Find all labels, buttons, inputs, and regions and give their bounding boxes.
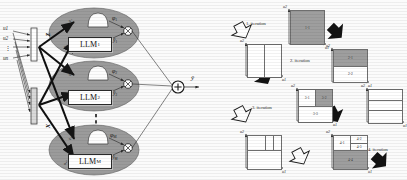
iteration-4-grid[interactable]: 4-1 4-2 4-3 4-4 bbox=[333, 135, 368, 170]
branch-output-m-sub: M bbox=[114, 157, 117, 161]
llm-box-1[interactable]: LLM1 bbox=[68, 37, 112, 52]
branchm-x-label: xM bbox=[63, 160, 68, 165]
input-label-u2-text: u2 bbox=[3, 35, 8, 41]
iteration-3-grid[interactable]: 3-1 3-2 3-3 bbox=[298, 89, 333, 123]
iteration-4-cell-4-1-label: 4-1 bbox=[340, 141, 345, 145]
structure-box-2-cell-c[interactable] bbox=[369, 111, 402, 123]
iteration-3-cell-3-2-label: 3-2 bbox=[322, 96, 327, 100]
white-arrow-4 bbox=[287, 145, 314, 169]
iteration-4-cell-4-4[interactable]: 4-4 bbox=[334, 151, 367, 169]
product-node-1 bbox=[124, 27, 133, 36]
branch1-z-sub: 1 bbox=[69, 19, 73, 20]
iteration-1-label: 1. iteration bbox=[246, 21, 266, 26]
input-label-u1: u1 bbox=[3, 26, 8, 31]
llm-box-m[interactable]: LLMM bbox=[68, 154, 112, 169]
iteration-2-cell-2-2[interactable]: 2-2 bbox=[334, 67, 367, 82]
structure-box-3-axis-x-text: u1 bbox=[282, 169, 286, 174]
llm-box-1-sub: 1 bbox=[97, 42, 100, 47]
structure-box-2-axis-x: u1 bbox=[403, 123, 407, 128]
z-vector-label-text: z bbox=[43, 33, 52, 36]
iteration-3-label-text: 3. iteration bbox=[252, 105, 272, 110]
branch2-z-sub: 2 bbox=[69, 73, 73, 74]
input-vdots-text: ⋮ bbox=[5, 45, 11, 51]
branch2-z-label: z2 bbox=[68, 73, 73, 76]
structure-box-2-axis-y-text: u2 bbox=[361, 83, 365, 88]
branch1-x-text: x bbox=[62, 46, 67, 48]
structure-box-3-cell-a[interactable] bbox=[248, 136, 266, 151]
branch-output-2: ŷ2 bbox=[113, 91, 117, 97]
product-node-m bbox=[124, 144, 133, 153]
structure-box-2-axis-x-text: u1 bbox=[403, 123, 407, 128]
branch-output-2-sub: 2 bbox=[115, 93, 117, 97]
input-label-un-text: un bbox=[3, 55, 8, 61]
iteration-2-label: 2. iteration bbox=[290, 58, 310, 63]
branchm-z-label: zM bbox=[68, 136, 73, 140]
structure-box-1-cell-a[interactable] bbox=[248, 45, 265, 77]
branch2-z-text: z bbox=[67, 74, 72, 76]
structure-box-1-axis-y-text: u2 bbox=[240, 38, 244, 43]
iteration-1-label-text: 1. iteration bbox=[246, 21, 266, 26]
iteration-1-axis-y: u2 bbox=[283, 4, 287, 9]
iteration-1-axis-y-text: u2 bbox=[283, 4, 287, 9]
iteration-3-cell-3-3-label: 3-3 bbox=[313, 112, 318, 116]
iteration-3-label: 3. iteration bbox=[252, 105, 272, 110]
x-vector-bar bbox=[31, 88, 37, 124]
structure-box-3-cell-d[interactable] bbox=[248, 151, 281, 169]
structure-box-3-grid[interactable] bbox=[247, 135, 282, 170]
iteration-4-label: 4. iteration bbox=[368, 147, 388, 152]
iteration-4-cell-4-2-label: 4-2 bbox=[357, 137, 362, 141]
iteration-2-cell-2-1-label: 2-1 bbox=[348, 56, 353, 60]
network-architecture-panel: LLM1 LLM2 LLMM u1 u2 ⋮ un z x z1 bbox=[0, 0, 204, 180]
structure-box-2-grid[interactable] bbox=[368, 89, 403, 124]
structure-box-1-axis-y: u2 bbox=[240, 38, 244, 43]
iteration-3-cell-3-2[interactable]: 3-2 bbox=[316, 90, 332, 107]
iteration-3-cell-3-3[interactable]: 3-3 bbox=[299, 107, 332, 122]
llm-box-2-sub: 2 bbox=[97, 95, 100, 100]
branch1-z-text: z bbox=[67, 20, 72, 22]
iteration-4-cell-4-2[interactable]: 4-2 bbox=[351, 136, 367, 144]
final-output-label: ŷ bbox=[191, 75, 194, 82]
llm-box-m-sub: M bbox=[96, 159, 101, 164]
iteration-1-grid[interactable]: 1-1 bbox=[290, 10, 325, 45]
structure-box-3-axis-y-text: u2 bbox=[240, 129, 244, 134]
iteration-4-axis-y-text: u2 bbox=[326, 129, 330, 134]
input-label-un: un bbox=[3, 56, 8, 61]
z-vector-label: z bbox=[44, 33, 52, 36]
final-output-text: ŷ bbox=[191, 74, 194, 82]
iteration-3-cell-3-1[interactable]: 3-1 bbox=[299, 90, 316, 107]
iteration-2-axis-x-text: u1 bbox=[368, 83, 372, 88]
structure-box-3-cell-b[interactable] bbox=[266, 136, 274, 151]
branch2-x-sub: 2 bbox=[64, 98, 68, 99]
iteration-2-grid[interactable]: 2-1 2-2 bbox=[333, 49, 368, 83]
structure-box-3-cell-c[interactable] bbox=[274, 136, 281, 151]
phi-label-1: φ1 bbox=[112, 15, 117, 22]
iteration-2-cell-2-2-label: 2-2 bbox=[348, 72, 353, 76]
black-arrow-1 bbox=[323, 19, 350, 46]
phi-1-sub: 1 bbox=[115, 18, 117, 22]
branch1-x-label: x1 bbox=[63, 45, 68, 48]
branch1-z-label: z1 bbox=[68, 19, 73, 22]
structure-box-2-cell-a[interactable] bbox=[369, 90, 402, 101]
iteration-2-cell-2-1[interactable]: 2-1 bbox=[334, 50, 367, 67]
branchm-z-sub: M bbox=[69, 136, 73, 139]
structure-box-1-cell-b[interactable] bbox=[265, 45, 282, 77]
iteration-4-label-text: 4. iteration bbox=[368, 147, 388, 152]
iteration-4-axis-x: u1 bbox=[368, 169, 372, 174]
iteration-4-cell-4-3-label: 4-3 bbox=[357, 145, 362, 149]
iteration-4-cell-4-3[interactable]: 4-3 bbox=[351, 144, 367, 151]
llm-box-2[interactable]: LLM2 bbox=[68, 90, 112, 105]
iteration-4-cell-4-1[interactable]: 4-1 bbox=[334, 136, 351, 151]
figure-root: LLM1 LLM2 LLMM u1 u2 ⋮ un z x z1 bbox=[0, 0, 407, 180]
x-vector-label: x bbox=[44, 124, 52, 128]
z-vector-bar bbox=[31, 28, 37, 61]
llm-box-m-label: LLM bbox=[79, 157, 97, 166]
iteration-1-cell-1-1[interactable]: 1-1 bbox=[291, 11, 324, 44]
iteration-2-axis-y: u2 bbox=[326, 43, 330, 48]
x-vector-label-text: x bbox=[43, 124, 52, 128]
structure-box-2-cell-b[interactable] bbox=[369, 101, 402, 111]
phi-m-sub: M bbox=[113, 135, 116, 139]
product-node-2 bbox=[124, 80, 133, 89]
structure-box-1-grid[interactable] bbox=[247, 44, 282, 78]
iteration-4-axis-y: u2 bbox=[326, 129, 330, 134]
input-label-u2: u2 bbox=[3, 36, 8, 41]
